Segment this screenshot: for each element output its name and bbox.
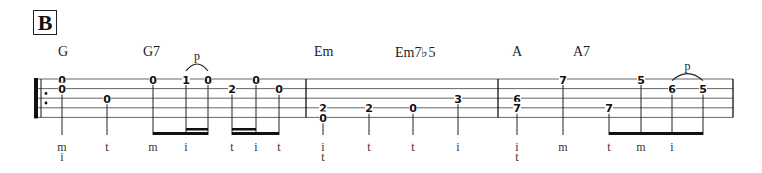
tablature-staff: 00mi0t0m1i0p2t0i0t20it2t0t3i67it7m7t5m6i…	[0, 0, 762, 173]
pull-off-label: p	[685, 59, 691, 73]
fret-number: 0	[275, 83, 283, 96]
fret-number: 7	[559, 74, 567, 87]
fret-number: 3	[454, 93, 462, 106]
picking-finger: m	[148, 140, 158, 154]
picking-finger: t	[277, 140, 281, 154]
fret-number: 7	[513, 102, 521, 115]
beam	[232, 132, 279, 135]
fret-number: 6	[668, 83, 676, 96]
fret-number: 2	[365, 102, 373, 115]
fret-number: 1	[182, 74, 190, 87]
picking-finger: t	[105, 140, 109, 154]
fret-number: 0	[409, 102, 417, 115]
fret-number: 5	[637, 74, 645, 87]
fret-number: 7	[605, 102, 613, 115]
pull-off-slur	[186, 64, 208, 71]
picking-finger: i	[670, 140, 674, 154]
fret-number: 0	[58, 83, 66, 96]
picking-finger: i	[184, 140, 188, 154]
beam	[153, 132, 208, 135]
picking-finger: m	[636, 140, 646, 154]
picking-finger: t	[607, 140, 611, 154]
pull-off-slur	[672, 74, 703, 81]
repeat-thick-barline	[34, 78, 38, 118]
fret-number: 5	[699, 83, 707, 96]
fret-number: 0	[149, 74, 157, 87]
fret-number: 0	[252, 74, 260, 87]
picking-finger: t	[411, 140, 415, 154]
picking-finger: i	[456, 140, 460, 154]
fret-number: 0	[103, 93, 111, 106]
picking-finger: m	[558, 140, 568, 154]
picking-finger: t	[321, 150, 325, 164]
fret-number: 0	[204, 74, 212, 87]
pull-off-label: p	[194, 49, 200, 63]
beam-secondary	[232, 128, 256, 131]
fret-number: 0	[319, 112, 327, 125]
picking-finger: t	[367, 140, 371, 154]
repeat-dot	[45, 102, 48, 105]
picking-finger: t	[515, 150, 519, 164]
beam	[609, 132, 703, 135]
picking-finger: t	[230, 140, 234, 154]
fret-number: 2	[228, 83, 236, 96]
beam-secondary	[186, 128, 208, 131]
picking-finger: i	[254, 140, 258, 154]
repeat-dot	[45, 92, 48, 95]
